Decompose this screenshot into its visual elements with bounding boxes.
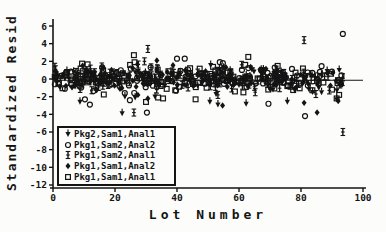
- svg-text:-4: -4: [36, 109, 48, 120]
- legend-item: Pkg1,Sam2,Anal1: [62, 150, 172, 161]
- legend-item-label: Pkg1,Sam2,Anal2: [74, 140, 155, 150]
- series-points-0: [77, 92, 339, 116]
- svg-text:100: 100: [354, 192, 371, 203]
- legend-item: Pkg1,Sam1,Anal2: [62, 161, 172, 172]
- x-axis-label: Lot Number: [53, 207, 363, 222]
- svg-text:-6: -6: [36, 126, 48, 137]
- residual-scatter-figure: Standardized Resid 6420-2-4-6-8-10-12020…: [0, 0, 386, 232]
- legend-item: Pkg2,Sam1,Anal1: [62, 129, 172, 140]
- legend: Pkg2,Sam1,Anal1 Pkg1,Sam2,Anal2 Pkg1,Sam…: [57, 126, 176, 186]
- svg-text:20: 20: [109, 192, 121, 203]
- svg-text:4: 4: [41, 38, 47, 49]
- svg-text:0: 0: [50, 192, 56, 203]
- legend-item-label: Pkg2,Sam1,Anal1: [74, 129, 155, 139]
- open-circle-marker-icon: [62, 140, 74, 150]
- svg-text:80: 80: [295, 192, 307, 203]
- legend-item: Pkg1,Sam2,Anal2: [62, 140, 172, 151]
- legend-item-label: Pkg1,Sam2,Anal1: [74, 150, 155, 160]
- filled-diamond-marker-icon: [62, 161, 74, 171]
- plot-area: 6420-2-4-6-8-10-12020406080100: [0, 0, 386, 232]
- svg-text:-8: -8: [36, 144, 48, 155]
- svg-text:0: 0: [41, 74, 47, 85]
- svg-text:-2: -2: [36, 91, 47, 102]
- legend-item-label: Pkg1,Sam1,Anal2: [74, 161, 155, 171]
- open-square-marker-icon: [62, 172, 74, 182]
- svg-text:6: 6: [41, 21, 47, 32]
- svg-text:-12: -12: [30, 179, 47, 190]
- dense-band-points: [52, 60, 345, 96]
- svg-text:-10: -10: [30, 162, 47, 173]
- legend-item-label: Pkg1,Sam1,Anal1: [74, 172, 155, 182]
- ibeam-marker-icon: [62, 150, 74, 160]
- svg-text:60: 60: [233, 192, 245, 203]
- svg-text:2: 2: [41, 56, 47, 67]
- svg-text:40: 40: [171, 192, 183, 203]
- legend-item: Pkg1,Sam1,Anal1: [62, 171, 172, 182]
- triangle-down-marker-icon: [62, 129, 74, 139]
